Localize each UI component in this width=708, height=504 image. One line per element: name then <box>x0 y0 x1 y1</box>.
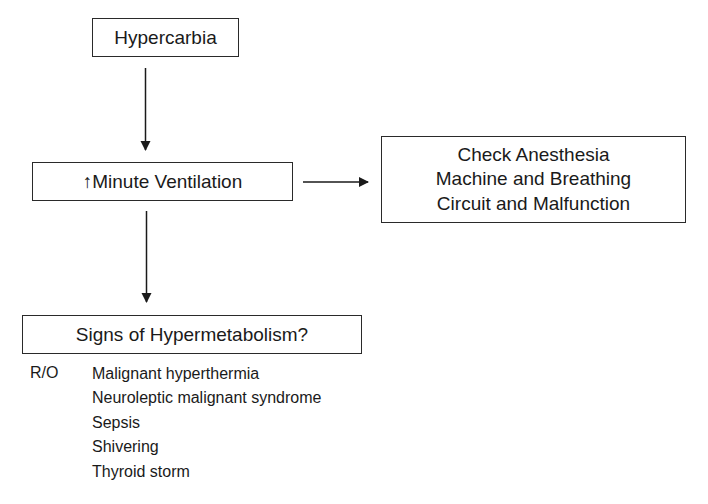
node-minute-ventilation: ↑Minute Ventilation <box>32 162 293 201</box>
rule-out-label: R/O <box>30 364 58 382</box>
node-check-line-3: Circuit and Malfunction <box>437 192 630 217</box>
list-item: Malignant hyperthermia <box>92 364 321 388</box>
node-check-machine: Check Anesthesia Machine and Breathing C… <box>381 136 686 223</box>
list-item: Neuroleptic malignant syndrome <box>92 388 321 412</box>
node-minute-ventilation-label: Minute Ventilation <box>92 171 242 192</box>
list-item: Sepsis <box>92 413 321 437</box>
rule-out-list: Malignant hyperthermia Neuroleptic malig… <box>92 364 321 486</box>
node-hypercarbia-label: Hypercarbia <box>114 26 216 50</box>
node-check-line-2: Machine and Breathing <box>436 167 631 192</box>
node-hypermetabolism: Signs of Hypermetabolism? <box>22 315 362 354</box>
node-hypercarbia: Hypercarbia <box>92 18 239 57</box>
node-check-line-1: Check Anesthesia <box>457 143 609 168</box>
list-item: Shivering <box>92 437 321 461</box>
list-item: Thyroid storm <box>92 462 321 486</box>
node-hypermetabolism-label: Signs of Hypermetabolism? <box>76 323 308 347</box>
up-arrow-icon: ↑ <box>83 171 93 192</box>
